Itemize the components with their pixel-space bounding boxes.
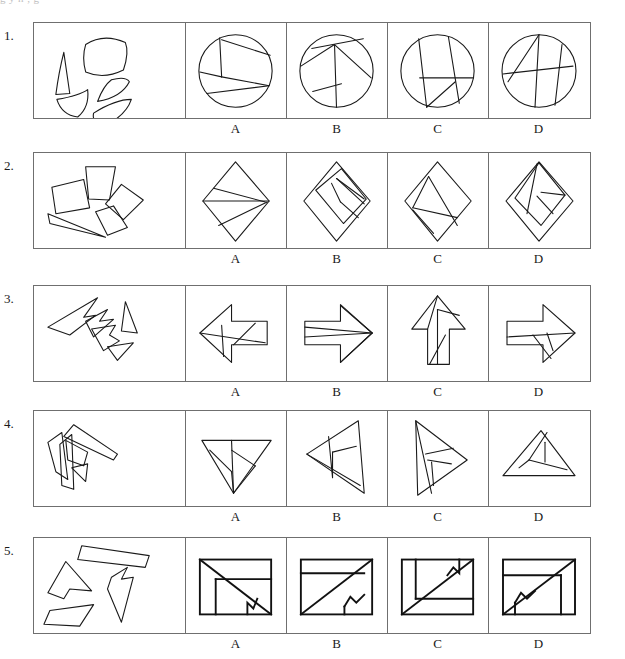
row-3-option-d[interactable]	[489, 286, 590, 381]
row-2-label-c: C	[387, 251, 488, 267]
row-1-label-b: B	[286, 121, 387, 137]
row-4-option-a[interactable]	[186, 411, 287, 506]
row-2-label-a: A	[185, 251, 286, 267]
row-3-option-a[interactable]	[186, 286, 287, 381]
row-2-option-c[interactable]	[388, 153, 489, 248]
row-1-label-c: C	[387, 121, 488, 137]
row-number-2: 2.	[4, 158, 14, 174]
row-4-option-d[interactable]	[489, 411, 590, 506]
row-3-strip	[33, 285, 591, 382]
row-4-prompt-cell[interactable]	[34, 411, 186, 506]
row-1-option-c[interactable]	[388, 23, 489, 118]
row-1-option-d[interactable]	[489, 23, 590, 118]
row-5-option-labels: A B C D	[33, 636, 591, 658]
row-2-strip	[33, 152, 591, 249]
row-number-4: 4.	[4, 416, 14, 432]
row-3-option-c[interactable]	[388, 286, 489, 381]
row-1-option-b[interactable]	[287, 23, 388, 118]
row-1-label-d: D	[488, 121, 589, 137]
worksheet-page: g y n , g 1.	[0, 0, 625, 659]
row-1-strip	[33, 22, 591, 119]
top-partial-text: g y n , g	[0, 0, 625, 14]
row-5-strip	[33, 537, 591, 634]
row-4-label-a: A	[185, 509, 286, 525]
row-2-option-d[interactable]	[489, 153, 590, 248]
row-5-option-a[interactable]	[186, 538, 287, 633]
row-number-3: 3.	[4, 291, 14, 307]
row-1-option-a[interactable]	[186, 23, 287, 118]
row-4-option-labels: A B C D	[33, 509, 591, 531]
row-3-label-c: C	[387, 384, 488, 400]
row-number-5: 5.	[4, 543, 14, 559]
row-2-option-b[interactable]	[287, 153, 388, 248]
row-4-label-c: C	[387, 509, 488, 525]
row-4-label-d: D	[488, 509, 589, 525]
row-2-label-b: B	[286, 251, 387, 267]
row-5-option-c[interactable]	[388, 538, 489, 633]
row-5-label-c: C	[387, 636, 488, 652]
row-2-prompt-cell[interactable]	[34, 153, 186, 248]
row-5-prompt-cell[interactable]	[34, 538, 186, 633]
row-4-option-c[interactable]	[388, 411, 489, 506]
row-5-option-d[interactable]	[489, 538, 590, 633]
row-2-option-a[interactable]	[186, 153, 287, 248]
row-4-strip	[33, 410, 591, 507]
row-4-option-b[interactable]	[287, 411, 388, 506]
row-number-1: 1.	[4, 28, 14, 44]
row-4-label-b: B	[286, 509, 387, 525]
row-5-label-b: B	[286, 636, 387, 652]
row-1-label-a: A	[185, 121, 286, 137]
row-3-label-a: A	[185, 384, 286, 400]
row-1-option-labels: A B C D	[33, 121, 591, 143]
row-3-option-b[interactable]	[287, 286, 388, 381]
row-3-prompt-cell[interactable]	[34, 286, 186, 381]
row-3-label-b: B	[286, 384, 387, 400]
row-2-label-d: D	[488, 251, 589, 267]
row-3-option-labels: A B C D	[33, 384, 591, 406]
row-3-label-d: D	[488, 384, 589, 400]
row-5-label-a: A	[185, 636, 286, 652]
row-1-prompt-cell[interactable]	[34, 23, 186, 118]
row-5-option-b[interactable]	[287, 538, 388, 633]
row-5-label-d: D	[488, 636, 589, 652]
row-2-option-labels: A B C D	[33, 251, 591, 273]
